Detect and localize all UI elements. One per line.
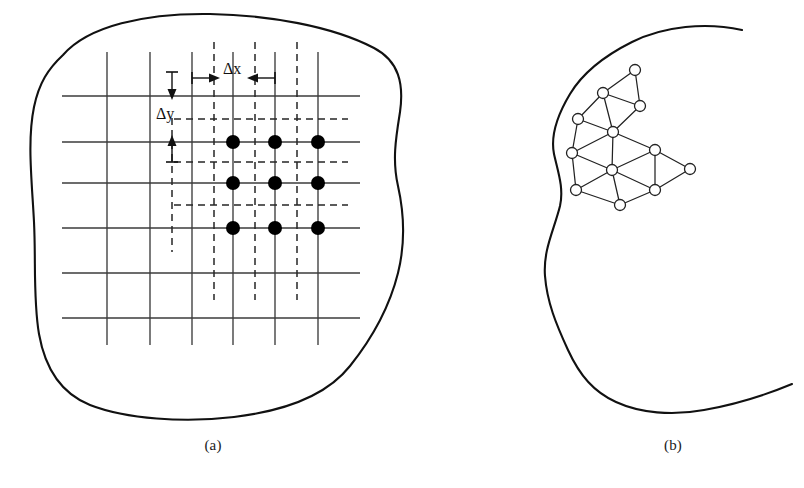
domain-boundary-b	[545, 26, 792, 413]
domain-boundary-a	[30, 14, 403, 420]
mesh-node	[608, 127, 619, 138]
panel-label-a: (a)	[183, 437, 243, 454]
grid-node	[226, 176, 240, 190]
grid-dashed-vertical	[172, 42, 297, 300]
figure-caption	[0, 474, 804, 488]
grid-node	[268, 135, 282, 149]
mesh-node	[650, 185, 661, 196]
mesh-node	[615, 200, 626, 211]
grid-node	[268, 176, 282, 190]
mesh-nodes	[567, 65, 696, 211]
mesh-node	[573, 114, 584, 125]
panel-a-group	[30, 14, 403, 420]
figure-canvas	[0, 0, 804, 488]
grid-dashed-horizontal	[174, 119, 348, 205]
mesh-node	[607, 165, 618, 176]
delta-y-label: Δy	[156, 105, 174, 123]
mesh-node	[630, 65, 641, 76]
delta-x-label: Δx	[223, 60, 241, 78]
mesh-node	[567, 148, 578, 159]
grid-node	[311, 221, 325, 235]
mesh-node	[650, 145, 661, 156]
grid-node	[226, 135, 240, 149]
panel-label-b: (b)	[643, 437, 703, 454]
grid-node	[226, 221, 240, 235]
mesh-edges	[572, 70, 690, 205]
grid-node	[268, 221, 282, 235]
mesh-node	[685, 164, 696, 175]
grid-node	[311, 135, 325, 149]
mesh-node	[571, 185, 582, 196]
panel-b-group	[545, 26, 792, 413]
grid-node	[311, 176, 325, 190]
mesh-node	[598, 88, 609, 99]
figure-root: Δx Δy (a) (b)	[0, 0, 804, 488]
mesh-node	[635, 101, 646, 112]
